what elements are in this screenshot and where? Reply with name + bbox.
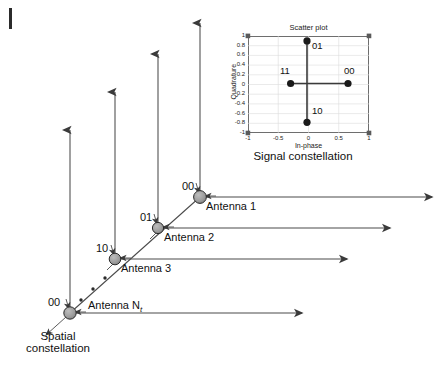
ytick-label: 0.8	[227, 42, 245, 48]
constellation-point-01[interactable]	[303, 37, 310, 44]
xaxis-label: In-phase	[248, 142, 369, 149]
constellation-point-00[interactable]	[344, 80, 351, 87]
depth-axis-line	[70, 197, 200, 313]
bits-label-antenna-nt: 00	[48, 297, 60, 309]
bits-label-antenna-3: 10	[96, 243, 108, 255]
spatial-constellation-label-line2: constellation	[12, 342, 104, 354]
antenna-label-2: Antenna 2	[164, 232, 214, 244]
constellation-label-01: 01	[312, 41, 323, 51]
constellation-label-00: 00	[344, 66, 355, 76]
xtick-label: 0	[299, 135, 319, 141]
bits-label-antenna-1: 00	[182, 181, 194, 193]
antenna-label-nt-text: Antenna N	[88, 299, 140, 311]
constellation-point-10[interactable]	[303, 119, 310, 126]
xtick-label: -1	[238, 135, 258, 141]
ellipsis-dot	[79, 298, 82, 301]
ytick-label: -0.8	[227, 119, 245, 125]
antenna-label-nt: Antenna Nt	[88, 300, 142, 315]
antenna-node-3[interactable]	[109, 253, 121, 265]
antenna-node-nt[interactable]	[64, 307, 76, 319]
corner-marker	[367, 34, 372, 39]
antenna-label-3: Antenna 3	[121, 263, 171, 275]
ellipsis-dot	[103, 276, 106, 279]
antenna-node-1[interactable]	[194, 191, 207, 204]
spatial-constellation-label: Spatial constellation	[12, 330, 104, 354]
antenna-label-nt-subscript: t	[140, 305, 142, 314]
spatial-constellation-label-line1: Spatial	[12, 330, 104, 342]
scatter-plot-panel: Scatter plot	[219, 22, 387, 147]
xtick-label: -0.5	[268, 135, 288, 141]
antenna-label-1: Antenna 1	[206, 201, 256, 213]
yaxis-label: Quadrature	[230, 49, 237, 115]
antenna-ellipsis-dots	[79, 276, 106, 301]
xtick-label: 0.5	[329, 135, 349, 141]
corner-marker	[246, 34, 251, 39]
bits-label-antenna-2: 01	[140, 212, 152, 224]
constellation-point-11[interactable]	[287, 80, 294, 87]
signal-constellation-label: Signal constellation	[228, 150, 378, 162]
ytick-label: 1	[227, 32, 245, 38]
constellation-label-11: 11	[280, 66, 290, 76]
figure-canvas: Antenna 1 Antenna 2 Antenna 3 Antenna Nt…	[0, 0, 448, 367]
antenna-node-2[interactable]	[152, 222, 163, 233]
ellipsis-dot	[91, 287, 94, 290]
constellation-label-10: 10	[312, 106, 323, 116]
horizontal-axes-group	[70, 197, 432, 313]
xtick-label: 1	[359, 135, 379, 141]
